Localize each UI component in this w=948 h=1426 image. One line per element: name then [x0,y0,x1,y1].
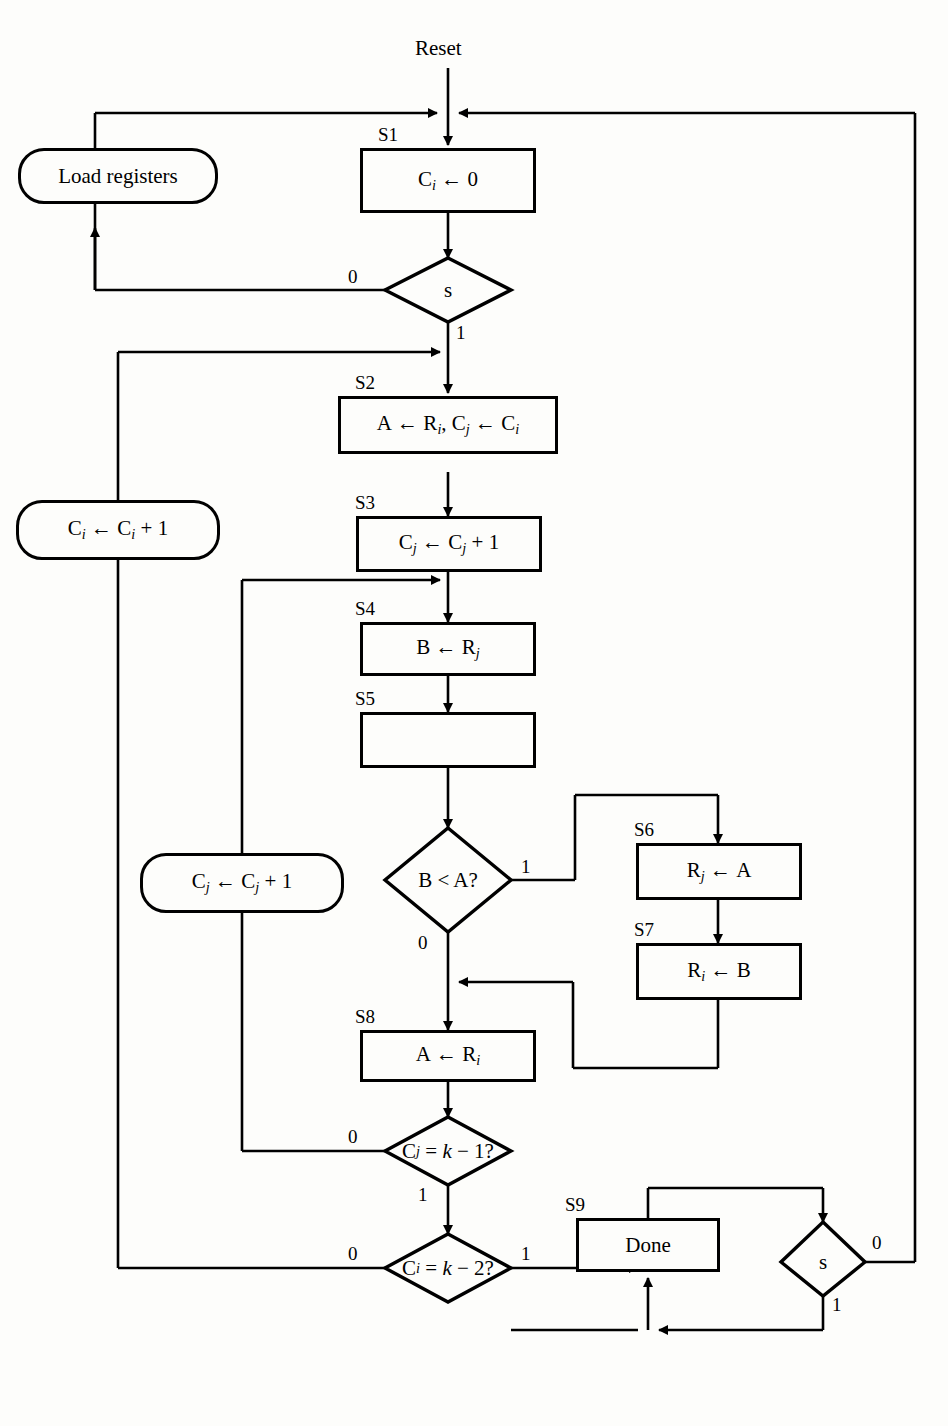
edge-label-ci-0: 0 [348,1243,358,1265]
state-label-s7: S7 [634,919,654,941]
state-box-s8[interactable]: A ← Ri [360,1030,536,1082]
state-box-s4-text: B ← Rj [416,637,480,661]
state-label-s9: S9 [565,1194,585,1216]
operation-load-registers[interactable]: Load registers [18,148,218,204]
state-box-s7-text: Ri ← B [687,960,751,984]
decision-ci-text: Ci = k − 2? [388,1256,508,1280]
state-box-s1-text: Ci ← 0 [418,169,478,193]
operation-load-registers-text: Load registers [58,166,178,187]
state-box-s2-text: A ← Ri, Cj ← Ci [377,413,520,437]
state-label-s4: S4 [355,598,375,620]
state-label-s1: S1 [378,124,398,146]
operation-increment-cj-text: Cj ← Cj + 1 [192,871,292,895]
decision-s-bottom-text: s [803,1250,843,1274]
operation-increment-cj[interactable]: Cj ← Cj + 1 [140,853,344,913]
state-label-s6: S6 [634,819,654,841]
edge-label-s-top-1: 1 [456,322,466,344]
edge-label-s-bottom-1: 1 [832,1294,842,1316]
edge-label-b-lt-a-0: 0 [418,932,428,954]
state-box-s4[interactable]: B ← Rj [360,622,536,676]
state-box-s7[interactable]: Ri ← B [636,943,802,1000]
state-box-s1[interactable]: Ci ← 0 [360,148,536,213]
state-box-s9-done-text: Done [625,1235,671,1256]
decision-s-top-text: s [428,278,468,302]
edge-label-cj-1: 1 [418,1184,428,1206]
state-box-s6-text: Rj ← A [687,860,752,884]
state-label-s8: S8 [355,1006,375,1028]
state-box-s2[interactable]: A ← Ri, Cj ← Ci [338,396,558,454]
state-box-s9-done[interactable]: Done [576,1218,720,1272]
decision-b-lt-a-text: B < A? [398,868,498,892]
state-label-s2: S2 [355,372,375,394]
edge-label-cj-0: 0 [348,1126,358,1148]
edge-label-ci-1: 1 [521,1243,531,1265]
state-box-s6[interactable]: Rj ← A [636,843,802,900]
operation-increment-ci[interactable]: Ci ← Ci + 1 [16,500,220,560]
edge-label-s-bottom-0: 0 [872,1232,882,1254]
state-box-s3[interactable]: Cj ← Cj + 1 [356,516,542,572]
edge-label-b-lt-a-1: 1 [521,856,531,878]
operation-increment-ci-text: Ci ← Ci + 1 [68,518,168,542]
edge-label-s-top-0: 0 [348,266,358,288]
decision-cj-text: Cj = k − 1? [388,1139,508,1163]
state-box-s3-text: Cj ← Cj + 1 [399,532,499,556]
state-label-s5: S5 [355,688,375,710]
state-box-s8-text: A ← Ri [416,1044,481,1068]
state-box-s5[interactable] [360,712,536,768]
reset-label: Reset [415,36,462,61]
flowchart-canvas: Reset Load registers S1 Ci ← 0 s 0 1 Ci … [0,0,948,1426]
state-label-s3: S3 [355,492,375,514]
